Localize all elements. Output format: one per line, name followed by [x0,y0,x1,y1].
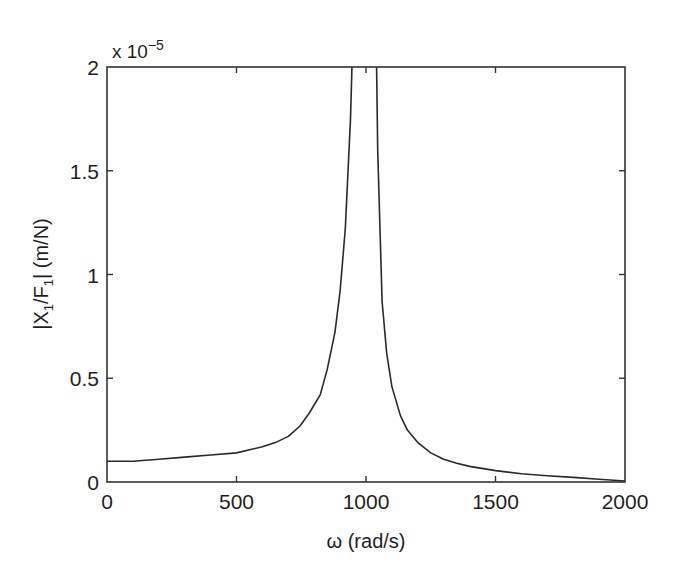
x-axis-label: ω (rad/s) [327,530,406,552]
x-tick-label: 2000 [602,490,649,513]
x-tick-label: 1000 [343,490,390,513]
y-tick-label: 2 [87,56,99,79]
y-tick-label: 0.5 [70,367,99,390]
y-tick-label: 1 [87,264,99,287]
x-axis-ticks: 0500100015002000 [101,67,648,513]
y-axis-ticks: 00.511.52 [70,56,625,494]
y-axis-multiplier: x 10−5 [112,37,164,62]
y-axis-label: |X1/F1| (m/N) [30,218,56,330]
y-tick-label: 1.5 [70,160,99,183]
x-tick-label: 500 [219,490,254,513]
frequency-response-chart: 0500100015002000 00.511.52 x 10−5 ω (rad… [0,0,679,570]
x-tick-label: 0 [101,490,113,513]
x-tick-label: 1500 [472,490,519,513]
plot-frame [107,67,625,482]
y-tick-label: 0 [87,471,99,494]
